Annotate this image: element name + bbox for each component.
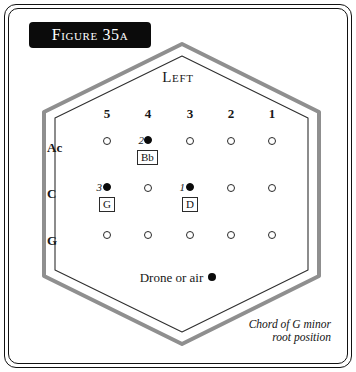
column-header-2: 2 — [220, 106, 242, 122]
diagram-content: Left 5 4 3 2 1 Ac C G 2 Bb 3 G 1 D — [0, 0, 356, 372]
figure-title-text: Figure 35a — [52, 27, 128, 43]
hole-c-3[interactable] — [186, 183, 194, 191]
row-header-c: C — [47, 186, 73, 202]
hole-ac-3[interactable] — [186, 137, 194, 145]
caption-line-1: Chord of G minor — [171, 318, 331, 331]
figure-caption: Chord of G minor root position — [171, 318, 331, 344]
finger-number-c-3: 1 — [171, 181, 185, 193]
row-header-ac: Ac — [47, 140, 73, 156]
figure-page: Figure 35a Left 5 4 3 2 1 Ac C G 2 Bb 3 … — [0, 0, 356, 372]
hole-g-5[interactable] — [103, 231, 111, 239]
drone-legend: Drone or air — [0, 270, 356, 286]
column-header-5: 5 — [96, 106, 118, 122]
drone-legend-label: Drone or air — [140, 270, 204, 285]
orientation-label: Left — [0, 69, 356, 86]
drone-dot-icon — [208, 273, 216, 281]
hole-c-2[interactable] — [227, 184, 235, 192]
note-label-g: G — [99, 197, 115, 212]
row-header-g: G — [47, 233, 73, 249]
hole-c-4[interactable] — [144, 184, 152, 192]
column-header-1: 1 — [261, 106, 283, 122]
finger-number-ac-4: 2 — [130, 134, 144, 146]
note-label-bb: Bb — [137, 150, 158, 165]
hole-ac-1[interactable] — [268, 137, 276, 145]
finger-number-c-5: 3 — [88, 181, 102, 193]
hole-ac-4[interactable] — [144, 136, 152, 144]
caption-line-2: root position — [171, 331, 331, 344]
hole-ac-5[interactable] — [103, 137, 111, 145]
note-label-d: D — [182, 197, 198, 212]
column-header-3: 3 — [179, 106, 201, 122]
hole-g-4[interactable] — [144, 231, 152, 239]
figure-title-banner: Figure 35a — [29, 22, 151, 48]
hole-c-1[interactable] — [268, 184, 276, 192]
column-header-4: 4 — [137, 106, 159, 122]
hole-c-5[interactable] — [103, 183, 111, 191]
hole-g-2[interactable] — [227, 231, 235, 239]
hole-g-3[interactable] — [186, 231, 194, 239]
hole-g-1[interactable] — [268, 231, 276, 239]
hole-ac-2[interactable] — [227, 137, 235, 145]
